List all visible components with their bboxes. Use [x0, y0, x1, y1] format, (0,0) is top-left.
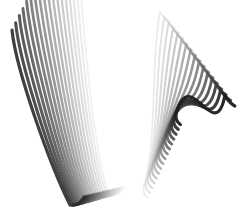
abstract-v-artwork	[0, 0, 245, 220]
